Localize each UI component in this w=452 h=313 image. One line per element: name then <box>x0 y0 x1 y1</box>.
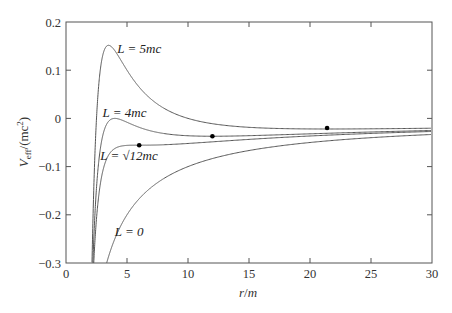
x-tick-label: 5 <box>124 267 130 281</box>
y-tick-label: −0.1 <box>38 160 61 174</box>
curve-label: L = 5mc <box>116 41 161 56</box>
marker-dot <box>210 134 215 139</box>
curve-label: L = √12mc <box>99 148 158 163</box>
x-tick-label: 20 <box>304 267 317 281</box>
y-tick-label: −0.2 <box>38 208 61 222</box>
x-tick-label: 0 <box>63 267 69 281</box>
tick-labels: 051015202530−0.3−0.2−0.100.10.2 <box>38 16 438 282</box>
x-tick-label: 10 <box>182 267 195 281</box>
curve-label: L = 4mc <box>102 105 147 120</box>
curve-labels: L = 5mcL = 4mcL = √12mcL = 0 <box>99 41 161 239</box>
x-tick-label: 30 <box>426 267 439 281</box>
marker-dot <box>325 126 330 131</box>
y-axis-label: Veff/(mc2) <box>15 117 33 167</box>
y-tick-label: 0 <box>55 112 61 126</box>
x-axis-label: r/m <box>239 285 257 300</box>
curve-1 <box>93 118 431 263</box>
y-tick-label: 0.1 <box>45 64 61 78</box>
chart: 051015202530−0.3−0.2−0.100.10.2 L = 5mcL… <box>0 0 452 313</box>
x-tick-label: 15 <box>243 267 256 281</box>
y-tick-label: 0.2 <box>45 16 61 30</box>
x-tick-label: 25 <box>365 267 378 281</box>
y-tick-label: −0.3 <box>38 257 61 271</box>
curve-label: L = 0 <box>114 224 144 239</box>
